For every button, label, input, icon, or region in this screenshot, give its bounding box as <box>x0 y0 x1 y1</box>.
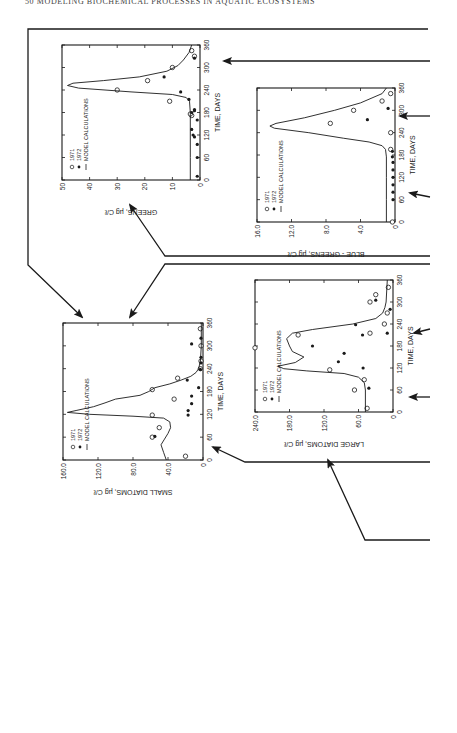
point-1972 <box>196 156 199 159</box>
point-1971 <box>385 311 389 315</box>
x-tick-label: 300 <box>396 296 403 307</box>
y-tick-label: 240.0 <box>252 415 259 432</box>
point-1972 <box>311 344 314 347</box>
point-1972 <box>389 308 392 311</box>
point-1972 <box>391 191 394 194</box>
legend-label: 1971 <box>69 149 75 161</box>
point-1972 <box>391 198 394 201</box>
point-1971 <box>368 331 372 335</box>
x-tick-label: 120 <box>206 409 213 420</box>
x-axis-label: TIME, DAYS <box>214 93 221 132</box>
point-1972 <box>391 183 394 186</box>
y-tick-label: 120.0 <box>321 415 328 432</box>
point-1971 <box>388 91 392 95</box>
x-tick-label: 360 <box>203 39 210 50</box>
y-tick-label: 16.0 <box>254 225 261 238</box>
legend-label: 1972 <box>269 381 275 393</box>
x-tick-label: 120 <box>396 362 403 373</box>
point-1972 <box>391 168 394 171</box>
y-tick-label: 12.0 <box>288 225 295 238</box>
x-tick-label: 300 <box>398 105 405 116</box>
point-1972 <box>186 378 189 381</box>
legend-label: MODEL CALCULATIONS <box>84 378 90 441</box>
arrow-to-large-diatoms <box>328 460 430 540</box>
point-1972 <box>190 402 193 405</box>
legend-label: MODEL CALCULATIONS <box>276 330 282 393</box>
point-1972 <box>197 386 200 389</box>
point-1972 <box>337 360 340 363</box>
model-line <box>270 88 387 222</box>
point-1971 <box>150 413 154 417</box>
small-diatoms-plot: 060120180240300360040.080.0120.0160.0TIM… <box>59 313 229 500</box>
point-1972 <box>179 90 182 93</box>
chart-large-diatoms: 060120180240300360060.0120.0180.0240.0TI… <box>251 270 419 452</box>
y-tick-label: 0 <box>200 463 207 467</box>
y-tick-label: 0 <box>197 183 204 187</box>
point-1971 <box>157 425 161 429</box>
legend-label: MODEL CALCULATIONS <box>278 140 284 203</box>
legend: 19711972MODEL CALCULATIONS <box>264 140 284 212</box>
point-1972 <box>367 387 370 390</box>
point-1972 <box>196 175 199 178</box>
x-tick-label: 0 <box>396 410 403 414</box>
legend-label: 1971 <box>70 429 76 441</box>
point-1972 <box>163 75 166 78</box>
point-1972 <box>391 176 394 179</box>
x-tick-label: 120 <box>203 129 210 140</box>
point-1972 <box>387 107 390 110</box>
legend-label: MODEL CALCULATIONS <box>83 98 89 161</box>
x-tick-label: 0 <box>206 458 213 462</box>
point-1971 <box>296 333 300 337</box>
y-tick-label: 8.0 <box>323 225 330 234</box>
point-1972 <box>193 57 196 60</box>
point-1971 <box>380 99 384 103</box>
y-tick-label: 4.0 <box>357 225 364 234</box>
greens-plot: 06012018024030036001020304050TIME, DAYSG… <box>58 35 226 220</box>
point-1971 <box>175 376 179 380</box>
legend: 19711972MODEL CALCULATIONS <box>70 378 90 450</box>
point-1972 <box>343 352 346 355</box>
legend-label: 1971 <box>264 191 270 203</box>
blue-greens-plot: 06012018024030036004.08.012.016.0TIME, D… <box>253 78 421 262</box>
x-tick-label: 300 <box>206 340 213 351</box>
chart-blue-greens: 06012018024030036004.08.012.016.0TIME, D… <box>253 78 421 262</box>
x-tick-label: 240 <box>206 363 213 374</box>
point-1972 <box>391 161 394 164</box>
x-tick-label: 240 <box>398 127 405 138</box>
y-tick-label: 40 <box>86 183 93 191</box>
chart-small-diatoms: 060120180240300360040.080.0120.0160.0TIM… <box>59 313 229 500</box>
point-1971 <box>352 388 356 392</box>
point-1972 <box>196 118 199 121</box>
x-tick-label: 360 <box>206 317 213 328</box>
x-tick-label: 240 <box>203 84 210 95</box>
point-1971 <box>368 300 372 304</box>
x-tick-label: 180 <box>396 340 403 351</box>
point-1972 <box>361 333 364 336</box>
point-1971 <box>382 322 386 326</box>
point-1972 <box>374 299 377 302</box>
legend-label: 1972 <box>77 429 83 441</box>
x-tick-label: 180 <box>206 386 213 397</box>
point-1972 <box>391 150 394 153</box>
point-1971 <box>374 292 378 296</box>
y-tick-label: 50 <box>59 183 66 191</box>
x-tick-label: 180 <box>203 107 210 118</box>
legend: 19711972MODEL CALCULATIONS <box>262 330 282 402</box>
y-tick-label: 180.0 <box>286 415 293 432</box>
x-tick-label: 180 <box>398 149 405 160</box>
x-axis-label: TIME, DAYS <box>217 372 224 411</box>
point-1972 <box>366 118 369 121</box>
point-1971 <box>328 368 332 372</box>
y-tick-label: 80.0 <box>130 463 137 476</box>
y-axis-label: BLUE - GREENS, µg C/ℓ <box>287 250 365 258</box>
x-tick-label: 60 <box>203 154 210 162</box>
y-axis-label: GREENS, µg C/ℓ <box>104 208 157 216</box>
y-tick-label: 0 <box>390 415 397 419</box>
x-tick-label: 360 <box>396 274 403 285</box>
point-1972 <box>190 394 193 397</box>
point-1972 <box>193 108 196 111</box>
y-tick-label: 0 <box>392 225 399 229</box>
x-tick-label: 120 <box>398 172 405 183</box>
point-1971 <box>172 397 176 401</box>
legend-label: 1972 <box>76 149 82 161</box>
